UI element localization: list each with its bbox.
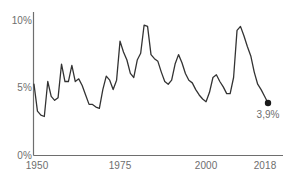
y-axis-tick-label-0: 0% [2, 150, 32, 161]
line-chart-plot [0, 0, 290, 176]
y-axis-tick-label-5: 5% [2, 82, 32, 93]
endpoint-value-label: 3,9% [247, 109, 289, 120]
axis-lines [34, 12, 284, 156]
endpoint-marker-group [265, 100, 271, 106]
x-axis-tick-label-1975: 1975 [100, 160, 140, 171]
series-line-unemployment [34, 25, 268, 116]
data-series-group [34, 25, 268, 116]
x-axis-tick-label-2018: 2018 [245, 160, 285, 171]
endpoint-marker-icon [265, 100, 271, 106]
y-axis-tick-label-10: 10% [2, 15, 32, 26]
x-axis-tick-label-2000: 2000 [186, 160, 226, 171]
x-axis-tick-label-1950: 1950 [17, 160, 57, 171]
chart-container: 10% 5% 0% 1950 1975 2000 2018 3,9% [0, 0, 290, 176]
